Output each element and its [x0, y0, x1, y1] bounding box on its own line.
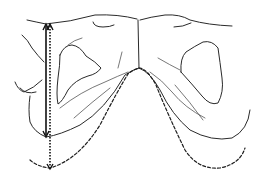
midline: [138, 20, 139, 68]
diagram-canvas: [0, 0, 264, 179]
dotted-measurement-arrow: [47, 24, 53, 169]
left-ridge-3: [118, 52, 122, 68]
right-body-contour: [139, 68, 250, 139]
top-outline-right: [140, 15, 232, 26]
left-opening-upper-curve: [68, 38, 82, 45]
top-fold-left: [93, 22, 114, 27]
solid-measurement-arrow: [43, 24, 49, 137]
left-ridge-2: [74, 88, 110, 118]
top-outline-left: [27, 15, 137, 24]
right-ridge-1: [158, 58, 180, 70]
dashed-lower-curve: [30, 68, 245, 168]
anatomy-drawing: [0, 0, 264, 179]
left-ridge-1: [60, 72, 128, 108]
right-opening: [181, 42, 223, 104]
top-fold-right: [174, 23, 191, 27]
right-ridge-3: [175, 85, 203, 120]
left-lower-lobe: [15, 80, 42, 92]
left-outer-contour: [22, 35, 44, 62]
